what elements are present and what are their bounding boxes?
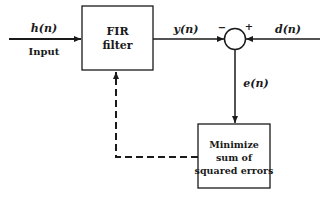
fir-filter-label-line2: filter [102, 39, 132, 52]
fir-filter-label-line1: FIR [106, 25, 129, 38]
feedback-dashed-path [116, 72, 198, 157]
adaptive-filter-diagram: h(n) Input FIR filter y(n) − + d(n) e(n)… [0, 0, 330, 198]
input-caption: Input [29, 46, 60, 57]
minimize-label-line1: Minimize [209, 139, 259, 150]
desired-signal-label: d(n) [275, 23, 301, 36]
output-signal-label: y(n) [173, 23, 199, 36]
minimize-label-line3: squared errors [195, 165, 274, 176]
plus-sign: + [245, 21, 253, 32]
error-signal-label: e(n) [243, 77, 268, 90]
input-signal-label: h(n) [31, 22, 57, 35]
minimize-label-line2: sum of [216, 152, 253, 163]
summing-junction [225, 29, 246, 50]
fir-filter-block [82, 6, 153, 70]
minus-sign: − [218, 22, 226, 33]
